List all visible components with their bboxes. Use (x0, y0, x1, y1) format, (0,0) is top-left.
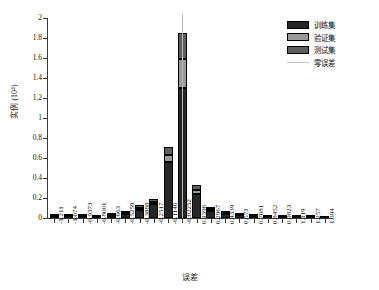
x-tick-label: 1.394 (328, 208, 336, 224)
y-tick-label: 1.2 (4, 94, 42, 102)
x-axis-title: 误差 (0, 271, 379, 282)
y-tick-label: 0.2 (4, 194, 42, 202)
x-tick-mark (239, 219, 240, 223)
y-tick-label: 1.8 (4, 34, 42, 42)
legend: 训练集验证集测试集零误差 (287, 19, 379, 69)
x-tick-label: 1.119 (299, 209, 307, 225)
x-tick-mark (54, 219, 55, 223)
x-tick-mark (168, 219, 169, 223)
x-tick-label: -0.02252 (185, 199, 193, 224)
x-tick-mark (225, 219, 226, 223)
x-tick-mark (125, 219, 126, 223)
x-tick-mark (83, 219, 84, 223)
bar-segment-test (164, 147, 173, 155)
x-tick-label: -1.074 (71, 206, 79, 224)
zero-error-line (182, 14, 183, 218)
x-tick-label: -0.8001 (100, 202, 108, 224)
legend-item[interactable]: 零误差 (287, 57, 379, 69)
legend-swatch-line (287, 58, 309, 66)
legend-item[interactable]: 测试集 (287, 44, 379, 56)
x-tick-label: 0.8452 (271, 205, 279, 224)
x-tick-label: -0.1146 (171, 203, 179, 224)
x-tick-mark (182, 219, 183, 223)
x-tick-mark (97, 219, 98, 223)
bar-stack (192, 18, 201, 218)
y-tick-label: 0 (4, 214, 42, 222)
legend-item[interactable]: 训练集 (287, 19, 379, 31)
bar-stack (221, 18, 230, 218)
bar-stack (263, 18, 272, 218)
x-tick-mark (254, 219, 255, 223)
x-tick-mark (268, 219, 269, 223)
x-tick-mark (211, 219, 212, 223)
bar-stack (64, 18, 73, 218)
x-tick-label: 0.571 (242, 208, 250, 224)
bar-stack (164, 18, 173, 218)
legend-swatch-valid (287, 33, 309, 41)
x-tick-label: 0.9823 (285, 205, 293, 224)
x-tick-mark (296, 219, 297, 223)
bar-stack (206, 18, 215, 218)
x-tick-label: 0.2967 (214, 205, 222, 224)
y-tick-label: 0.4 (4, 174, 42, 182)
y-tick-label: 2 (4, 14, 42, 22)
bar-segment-valid (192, 190, 201, 194)
legend-label: 训练集 (314, 19, 335, 30)
bar-stack (249, 18, 258, 218)
error-histogram-chart: 实例 (10⁴) 00.20.40.60.811.21.41.61.82 -1.… (0, 0, 379, 290)
legend-item[interactable]: 验证集 (287, 32, 379, 44)
bar-stack (50, 18, 59, 218)
x-tick-mark (197, 219, 198, 223)
x-tick-label: 0.1596 (200, 205, 208, 224)
bar-segment-valid (164, 155, 173, 163)
y-tick-label: 0.6 (4, 154, 42, 162)
bar-stack (149, 18, 158, 218)
x-tick-label: -0.663 (114, 206, 122, 224)
legend-label: 验证集 (314, 32, 335, 43)
bar-segment-test (192, 185, 201, 190)
y-tick-label: 0.8 (4, 134, 42, 142)
x-tick-mark (68, 219, 69, 223)
bar-stack (92, 18, 101, 218)
x-tick-label: 0.4339 (228, 205, 236, 224)
bar-stack (107, 18, 116, 218)
bar-stack (135, 18, 144, 218)
y-tick-label: 1.6 (4, 54, 42, 62)
legend-swatch-test (287, 46, 309, 54)
x-tick-mark (282, 219, 283, 223)
bar-stack (78, 18, 87, 218)
x-tick-label: -1.211 (57, 206, 65, 224)
x-tick-mark (311, 219, 312, 223)
bar-stack (121, 18, 130, 218)
y-tick-label: 1 (4, 114, 42, 122)
bar-stack (278, 18, 287, 218)
x-tick-mark (154, 219, 155, 223)
x-tick-label: 1.257 (314, 208, 322, 224)
x-tick-label: -0.5259 (128, 202, 136, 224)
x-tick-label: 0.7081 (257, 205, 265, 224)
legend-label: 测试集 (314, 44, 335, 55)
x-tick-label: -0.9373 (86, 202, 94, 224)
x-tick-mark (140, 219, 141, 223)
bar-stack (235, 18, 244, 218)
x-tick-mark (111, 219, 112, 223)
legend-label: 零误差 (314, 57, 335, 68)
legend-swatch-train (287, 21, 309, 29)
x-tick-label: -0.2517 (157, 202, 165, 224)
x-tick-label: -0.3888 (143, 202, 151, 224)
x-tick-mark (325, 219, 326, 223)
y-tick-label: 1.4 (4, 74, 42, 82)
